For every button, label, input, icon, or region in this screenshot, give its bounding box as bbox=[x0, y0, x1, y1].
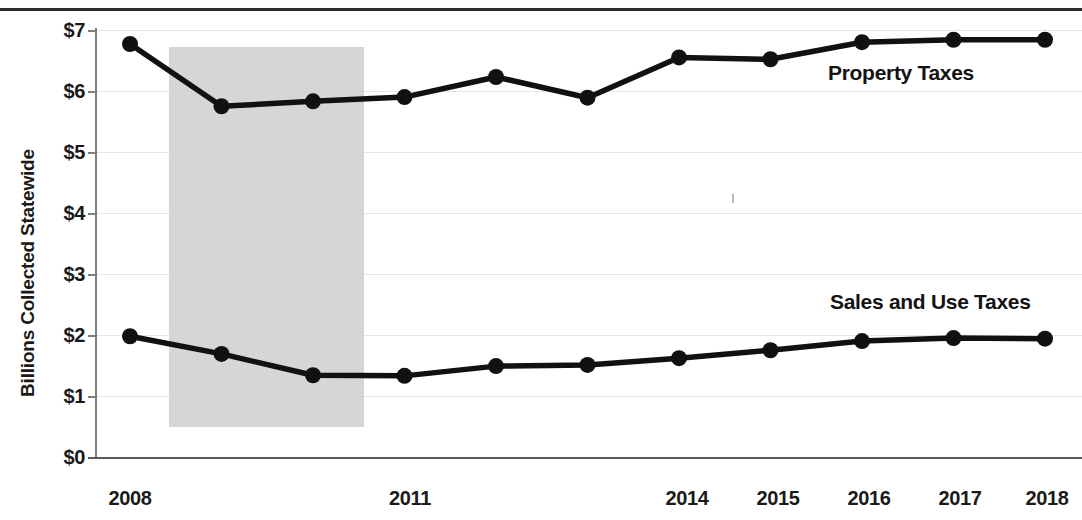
data-point bbox=[580, 90, 596, 106]
data-point bbox=[214, 346, 230, 362]
data-point bbox=[488, 69, 504, 85]
data-point bbox=[214, 98, 230, 114]
data-point bbox=[671, 350, 687, 366]
data-point bbox=[671, 49, 687, 65]
data-point bbox=[946, 32, 962, 48]
data-point bbox=[946, 330, 962, 346]
data-point bbox=[305, 93, 321, 109]
chart-figure: Billions Collected Statewide $7 $6 $5 $4… bbox=[0, 0, 1082, 520]
data-point bbox=[854, 333, 870, 349]
data-point bbox=[580, 357, 596, 373]
data-point bbox=[1037, 32, 1053, 48]
series-sales-and-use-taxes bbox=[122, 328, 1053, 384]
data-point bbox=[305, 367, 321, 383]
data-point bbox=[763, 342, 779, 358]
data-point bbox=[854, 34, 870, 50]
data-point bbox=[122, 36, 138, 52]
data-point bbox=[397, 89, 413, 105]
data-point bbox=[763, 51, 779, 67]
data-point bbox=[122, 328, 138, 344]
series-label-property-taxes: Property Taxes bbox=[828, 61, 974, 85]
series-label-sales-and-use-taxes: Sales and Use Taxes bbox=[830, 290, 1031, 314]
data-point bbox=[397, 368, 413, 384]
data-point bbox=[1037, 331, 1053, 347]
data-point bbox=[488, 358, 504, 374]
